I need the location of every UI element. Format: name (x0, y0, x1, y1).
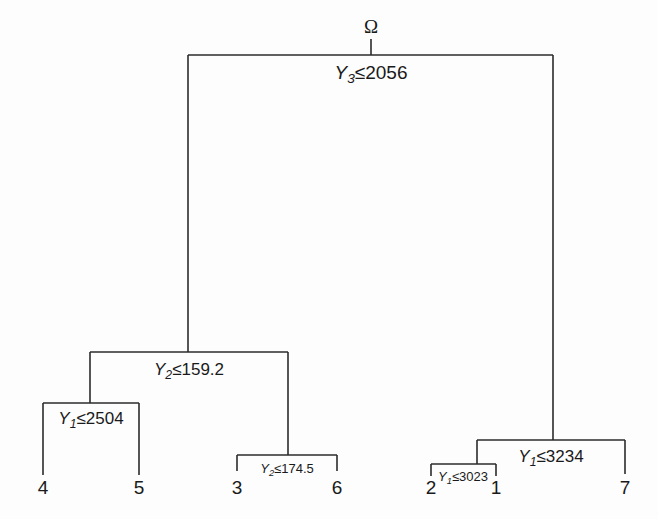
split-n4-threshold: 174.5 (281, 461, 314, 476)
split-root-operator: ≤ (355, 62, 365, 83)
split-n5-subscript: 1 (530, 455, 537, 469)
split-label-n4: Y2≤174.5 (260, 461, 314, 478)
leaf-node-6: 6 (332, 477, 343, 498)
split-n5-threshold: 3234 (546, 447, 584, 466)
split-n3-threshold: 2504 (86, 409, 124, 428)
split-label-root: Y3≤2056 (334, 62, 407, 86)
split-n6-threshold: 3023 (459, 469, 488, 484)
leaf-node-4: 4 (38, 477, 49, 498)
root-omega-label: Ω (364, 16, 378, 37)
tree-canvas: Ω Y3≤2056 Y2≤159.2 Y1≤2504 Y2≤174.5 Y1≤3… (0, 0, 658, 519)
leaf-node-1: 1 (491, 477, 502, 498)
decision-tree-figure: Ω Y3≤2056 Y2≤159.2 Y1≤2504 Y2≤174.5 Y1≤3… (0, 0, 658, 519)
split-n3-subscript: 1 (70, 417, 77, 431)
split-root-threshold: 2056 (365, 62, 407, 83)
split-label-n6: Y1≤3023 (438, 469, 488, 486)
split-n3-operator: ≤ (76, 409, 85, 428)
split-n2-operator: ≤ (172, 360, 181, 379)
split-n2-threshold: 159.2 (181, 360, 224, 379)
leaf-node-2: 2 (426, 477, 437, 498)
split-label-n5: Y1≤3234 (518, 447, 583, 469)
split-label-n3: Y1≤2504 (58, 409, 123, 431)
split-n4-operator: ≤ (274, 461, 281, 476)
leaf-node-5: 5 (134, 477, 145, 498)
split-n2-subscript: 2 (164, 368, 172, 382)
split-n6-operator: ≤ (452, 469, 459, 484)
leaf-node-3: 3 (232, 477, 243, 498)
split-label-n2: Y2≤159.2 (154, 360, 224, 382)
leaf-node-7: 7 (620, 477, 631, 498)
split-n5-operator: ≤ (536, 447, 545, 466)
